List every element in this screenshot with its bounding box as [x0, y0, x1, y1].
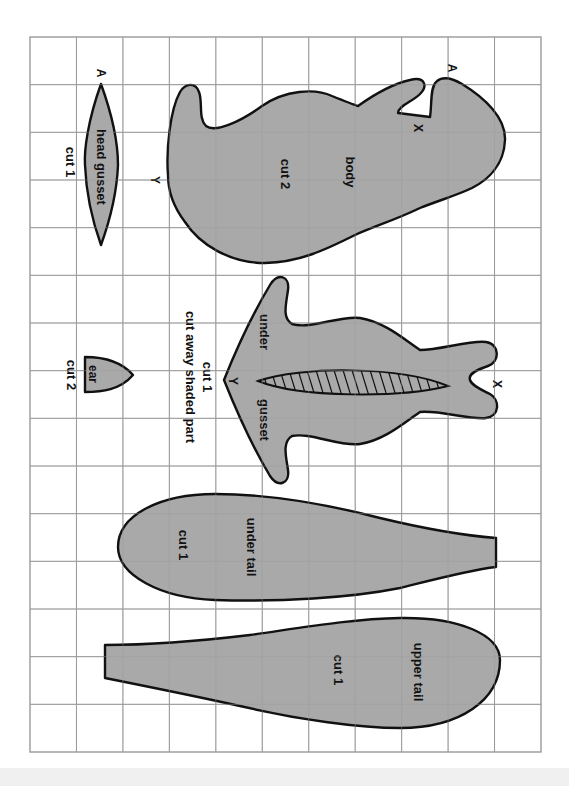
under-gusset-label-part1: under: [257, 314, 272, 350]
under-gusset-marker-y: Y: [226, 377, 240, 385]
body-marker-a: A: [445, 64, 459, 73]
under-gusset-instruction: cut 1: [200, 362, 215, 392]
body-shape: [168, 78, 506, 263]
under-tail-label: under tail: [244, 518, 259, 577]
body-piece: A X Y body cut 2: [148, 64, 505, 263]
upper-tail-label: upper tail: [411, 643, 426, 702]
under-gusset-label-part2: gusset: [257, 399, 272, 442]
body-instruction: cut 2: [278, 159, 293, 189]
ear-label: ear: [86, 365, 100, 383]
pattern-sheet: A head gusset cut 1 A X Y body cut 2 X Y…: [0, 0, 569, 786]
under-tail-piece: under tail cut 1: [118, 494, 496, 601]
under-tail-shape: [118, 494, 496, 601]
body-marker-x: X: [411, 124, 425, 132]
upper-tail-piece: upper tail cut 1: [105, 618, 500, 728]
upper-tail-shape: [105, 618, 500, 728]
head-gusset-instruction: cut 1: [63, 147, 78, 177]
head-gusset-piece: A head gusset cut 1: [63, 69, 118, 245]
under-gusset-note: cut away shaded part: [183, 311, 198, 444]
under-gusset-marker-x: X: [490, 380, 504, 388]
head-gusset-label: head gusset: [94, 129, 109, 206]
upper-tail-instruction: cut 1: [331, 655, 346, 685]
under-gusset-piece: X Y under gusset cut 1 cut away shaded p…: [183, 277, 504, 483]
body-label: body: [343, 156, 358, 188]
under-tail-instruction: cut 1: [176, 530, 191, 560]
head-gusset-marker-a: A: [94, 69, 108, 78]
